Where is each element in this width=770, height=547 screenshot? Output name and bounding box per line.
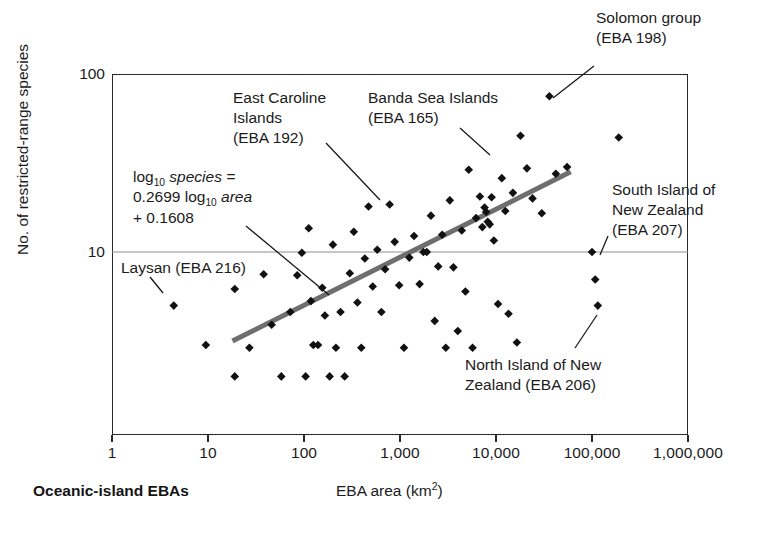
y-tick-label: 100 xyxy=(60,65,105,83)
regression-equation: log10 species = 0.2699 log10 area + 0.16… xyxy=(133,167,252,228)
x-tick-label: 1,000 xyxy=(380,444,419,462)
annot-east-caroline: East Caroline Islands (EBA 192) xyxy=(233,88,326,148)
annot-south-island-nz: South Island of New Zealand (EBA 207) xyxy=(612,180,715,240)
x-tick-label: 10 xyxy=(199,444,216,462)
x-tick-mark xyxy=(399,435,401,442)
x-tick-mark xyxy=(207,435,209,442)
x-tick-label: 10,000 xyxy=(472,444,520,462)
x-tick-mark xyxy=(111,435,113,442)
annot-solomon-group: Solomon group (EBA 198) xyxy=(596,8,701,48)
x-tick-label: 1 xyxy=(108,444,117,462)
x-tick-mark xyxy=(495,435,497,442)
x-tick-mark xyxy=(303,435,305,442)
annot-laysan: Laysan (EBA 216) xyxy=(121,258,246,278)
annot-north-island-nz: North Island of New Zealand (EBA 206) xyxy=(465,355,601,395)
x-tick-label: 1,000,000 xyxy=(653,444,723,462)
figure-scatter-oceanic-island-ebas: 10100 1101001,00010,000100,0001,000,000 … xyxy=(0,0,770,547)
y-axis-title: No. of restricted-range species xyxy=(14,44,32,255)
equation-line-1: log10 species = xyxy=(133,168,235,185)
equation-line-2: 0.2699 log10 area xyxy=(133,188,252,205)
x-axis-title: EBA area (km2) xyxy=(336,482,443,500)
y-tick-label: 10 xyxy=(60,243,105,261)
equation-line-3: + 0.1608 xyxy=(133,209,194,226)
x-tick-mark xyxy=(687,435,689,442)
x-tick-label: 100 xyxy=(291,444,317,462)
x-tick-mark xyxy=(591,435,593,442)
figure-corner-label: Oceanic-island EBAs xyxy=(33,482,189,500)
x-tick-label: 100,000 xyxy=(564,444,621,462)
annot-banda-sea: Banda Sea Islands (EBA 165) xyxy=(368,88,498,128)
